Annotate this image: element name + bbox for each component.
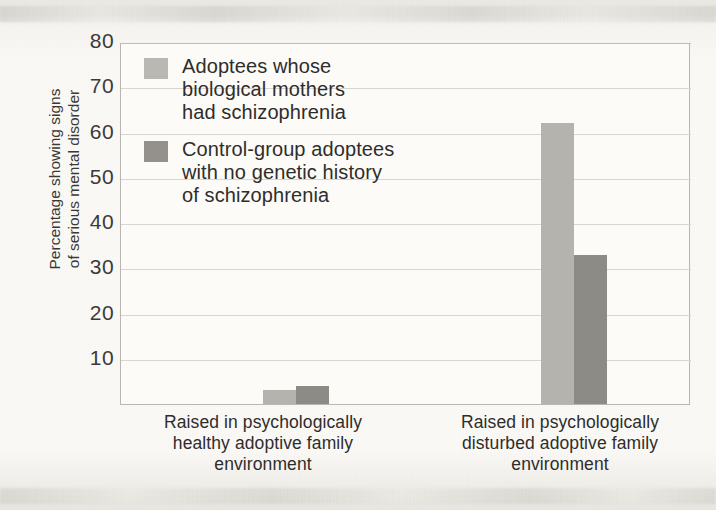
y-tick-label-50: 50 <box>68 165 114 189</box>
bar-series-0-category-1 <box>541 123 574 404</box>
legend-swatch-adoptees-schizophrenia <box>144 58 168 79</box>
chart-legend: Adoptees whose biological mothers had sc… <box>144 55 444 221</box>
gridline-40 <box>121 224 691 225</box>
x-axis-label-category-1: Raised in psychologically disturbed adop… <box>425 412 695 475</box>
bar-series-0-category-0 <box>263 390 296 404</box>
gridline-80 <box>121 43 691 44</box>
y-tick-label-70: 70 <box>68 74 114 98</box>
y-axis-tick-labels: 8070605040302010 <box>58 43 114 405</box>
y-tick-label-80: 80 <box>68 29 114 53</box>
y-tick-label-20: 20 <box>68 301 114 325</box>
legend-item-0: Adoptees whose biological mothers had sc… <box>144 55 444 124</box>
legend-swatch-control-group <box>144 141 168 162</box>
bar-chart: Percentage showing signs of serious ment… <box>0 0 716 510</box>
y-axis-label-container: Percentage showing signs of serious ment… <box>0 0 60 510</box>
x-axis-label-category-0: Raised in psychologically healthy adopti… <box>128 412 398 475</box>
y-tick-label-30: 30 <box>68 255 114 279</box>
y-tick-label-60: 60 <box>68 120 114 144</box>
bar-series-1-category-0 <box>296 386 329 404</box>
y-tick-label-10: 10 <box>68 346 114 370</box>
legend-label-1: Control-group adoptees with no genetic h… <box>182 138 394 207</box>
y-tick-label-40: 40 <box>68 210 114 234</box>
bar-series-1-category-1 <box>574 255 607 404</box>
legend-label-0: Adoptees whose biological mothers had sc… <box>182 55 346 124</box>
legend-item-1: Control-group adoptees with no genetic h… <box>144 138 444 207</box>
